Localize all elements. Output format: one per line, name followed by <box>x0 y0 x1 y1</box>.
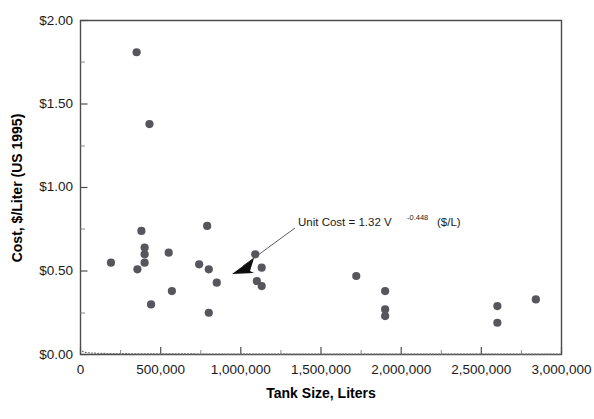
data-point <box>258 282 266 290</box>
fit-equation-prefix: Unit Cost = 1.32 V <box>298 216 392 228</box>
data-points-group <box>107 48 540 327</box>
x-tick-label: 3,000,000 <box>531 362 591 377</box>
x-axis-title: Tank Size, Liters <box>266 385 376 401</box>
x-tick-label: 2,500,000 <box>451 362 511 377</box>
y-tick-label: $0.00 <box>39 347 73 362</box>
y-tick-label: $2.00 <box>39 13 73 28</box>
data-point <box>352 272 360 280</box>
data-point <box>133 265 141 273</box>
fit-curve <box>82 351 561 354</box>
data-point <box>381 287 389 295</box>
y-tick-label: $1.00 <box>39 179 73 194</box>
data-point <box>141 250 149 258</box>
data-point <box>107 259 115 267</box>
data-point <box>195 260 203 268</box>
y-tick-label: $1.50 <box>39 96 73 111</box>
data-point <box>205 265 213 273</box>
fit-equation-annotation: Unit Cost = 1.32 V -0.448 ($/L) <box>298 213 461 228</box>
data-point <box>168 287 176 295</box>
data-point <box>205 309 213 317</box>
x-tick-label: 1,000,000 <box>211 362 271 377</box>
data-point <box>381 312 389 320</box>
y-major-ticks <box>81 21 88 355</box>
data-point <box>165 249 173 257</box>
x-tick-label: 500,000 <box>136 362 185 377</box>
data-point <box>493 302 501 310</box>
data-point <box>532 295 540 303</box>
x-major-ticks <box>81 347 562 355</box>
x-tick-labels: 0 500,000 1,000,000 1,500,000 2,000,000 … <box>77 362 592 377</box>
scatter-plot: Cost, $/Liter (US 1995) $2.00 $1.50 $1.0… <box>0 0 594 419</box>
data-point <box>145 120 153 128</box>
x-tick-label: 1,500,000 <box>291 362 351 377</box>
x-tick-label: 2,000,000 <box>371 362 431 377</box>
y-axis-title: Cost, $/Liter (US 1995) <box>9 114 25 263</box>
chart-container: Cost, $/Liter (US 1995) $2.00 $1.50 $1.0… <box>0 0 594 419</box>
data-point <box>258 264 266 272</box>
data-point <box>141 259 149 267</box>
fit-equation-exponent: -0.448 <box>407 213 428 222</box>
y-tick-labels: $2.00 $1.50 $1.00 $0.50 $0.00 <box>39 13 73 362</box>
y-tick-label: $0.50 <box>39 263 73 278</box>
data-point <box>133 48 141 56</box>
data-point <box>493 319 501 327</box>
data-point <box>203 222 211 230</box>
fit-equation-suffix: ($/L) <box>437 216 461 228</box>
x-tick-label: 0 <box>77 362 85 377</box>
data-point <box>213 279 221 287</box>
data-point <box>147 300 155 308</box>
data-point <box>137 227 145 235</box>
